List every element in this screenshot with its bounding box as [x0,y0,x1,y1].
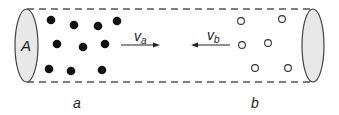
filled-particle [67,67,76,76]
current-tube-diagram: A va vb a b [0,0,339,115]
hollow-particle [239,42,246,49]
filled-particle [79,43,88,52]
hollow-particle [265,40,272,47]
tube-svg: A va vb a b [0,0,339,115]
region-b-label: b [251,95,259,111]
filled-particle [53,40,62,49]
arrowhead-right-icon [153,43,160,48]
filled-particle [98,66,107,75]
filled-particle [113,17,122,26]
region-a-label: a [73,95,81,111]
filled-particle [47,16,56,25]
right-cross-section-ellipse [302,9,324,82]
hollow-particle [279,16,286,23]
arrowhead-left-icon [191,43,198,48]
velocity-b-arrow [191,43,230,48]
cross-section-label: A [20,37,31,54]
filled-particle [94,22,103,31]
velocity-a-label: va [134,28,147,46]
hollow-particle [238,18,245,25]
particles-a-group [45,16,122,76]
filled-particle [70,21,79,30]
velocity-b-label: vb [207,27,220,45]
hollow-particle [285,65,292,72]
filled-particle [101,40,110,49]
filled-particle [45,65,54,74]
particles-b-group [238,16,292,72]
hollow-particle [252,65,259,72]
